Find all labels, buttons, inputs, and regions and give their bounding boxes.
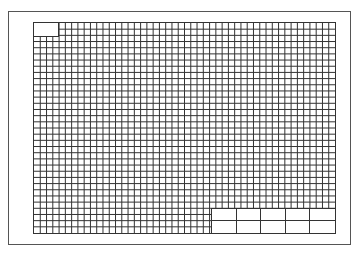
title-block-cell	[237, 221, 262, 233]
title-block-cell	[286, 209, 311, 221]
sheet-label-box	[33, 22, 59, 37]
grid-lines	[34, 23, 335, 233]
title-block-cell	[237, 209, 262, 221]
title-block-cell	[212, 209, 237, 221]
grid-area	[33, 22, 336, 234]
title-block-cell	[261, 209, 286, 221]
title-block	[211, 208, 336, 234]
title-block-cell	[286, 221, 311, 233]
title-block-cell	[310, 221, 335, 233]
title-block-cell	[212, 221, 237, 233]
title-block-cell	[310, 209, 335, 221]
title-block-cell	[261, 221, 286, 233]
